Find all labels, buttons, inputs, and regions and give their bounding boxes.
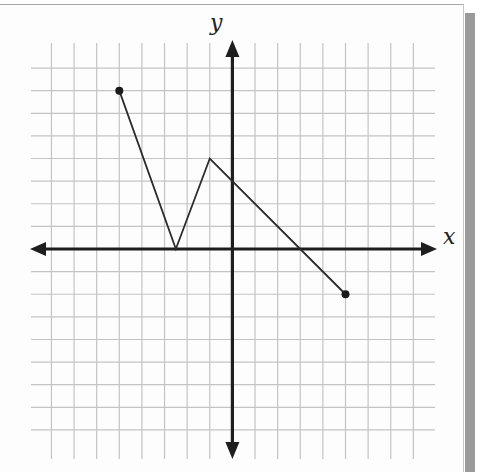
axes [30, 40, 437, 459]
y-axis-label: y [209, 10, 223, 35]
y-axis-arrow-up-icon [225, 40, 239, 57]
end-point-dot [342, 290, 350, 298]
x-axis-arrow-right-icon [421, 242, 437, 256]
coordinate-plane: x y [0, 0, 487, 472]
start-point-dot [115, 87, 123, 95]
y-axis-arrow-down-icon [225, 442, 239, 459]
x-axis-arrow-left-icon [30, 242, 46, 256]
x-axis-label: x [443, 224, 456, 249]
